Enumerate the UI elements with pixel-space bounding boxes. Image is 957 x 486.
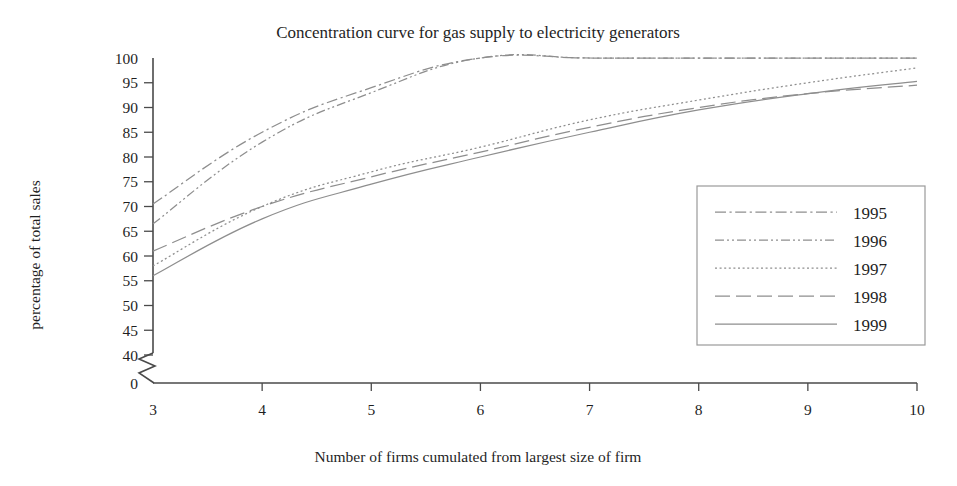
x-axis-label: Number of firms cumulated from largest s… [315,448,642,465]
legend-label-1995: 1995 [853,204,887,223]
x-axis-tick-label: 10 [909,401,925,418]
legend-box [697,186,925,345]
legend-label-1998: 1998 [853,288,887,307]
y-axis-label: percentage of total sales [26,180,43,329]
y-axis-tick-label: 75 [123,173,139,190]
y-axis-tick-label: 0 [130,375,138,392]
y-axis-tick-label: 40 [123,347,139,364]
legend-group: 19951996199719981999 [697,186,925,345]
y-axis-tick-label: 85 [123,124,139,141]
x-axis-tick-label: 9 [804,401,812,418]
y-axis-tick-label: 50 [123,297,139,314]
y-axis-tick-label: 90 [123,99,139,116]
concentration-curve-chart: Concentration curve for gas supply to el… [0,0,957,486]
x-axis-tick-label: 3 [149,401,157,418]
chart-container: Concentration curve for gas supply to el… [0,0,957,486]
x-axis-tick-label: 6 [477,401,485,418]
x-axis-tick-label: 7 [586,401,594,418]
chart-title: Concentration curve for gas supply to el… [276,23,680,42]
x-axis-tick-label: 8 [695,401,703,418]
y-axis-tick-label: 55 [123,272,139,289]
legend-label-1999: 1999 [853,316,887,335]
series-line-1995 [153,55,917,204]
legend-label-1996: 1996 [853,232,887,251]
x-axis-tick-label: 5 [367,401,375,418]
y-axis-tick-label: 80 [123,149,139,166]
y-axis-tick-label: 100 [115,50,139,67]
y-axis-tick-label: 60 [123,248,139,265]
legend-label-1997: 1997 [853,260,888,279]
y-axis-tick-label: 95 [123,74,139,91]
y-axis-tick-label: 70 [123,198,139,215]
y-axis-tick-label: 45 [123,322,139,339]
y-axis-tick-label: 65 [123,223,139,240]
x-axis-tick-label: 4 [258,401,266,418]
